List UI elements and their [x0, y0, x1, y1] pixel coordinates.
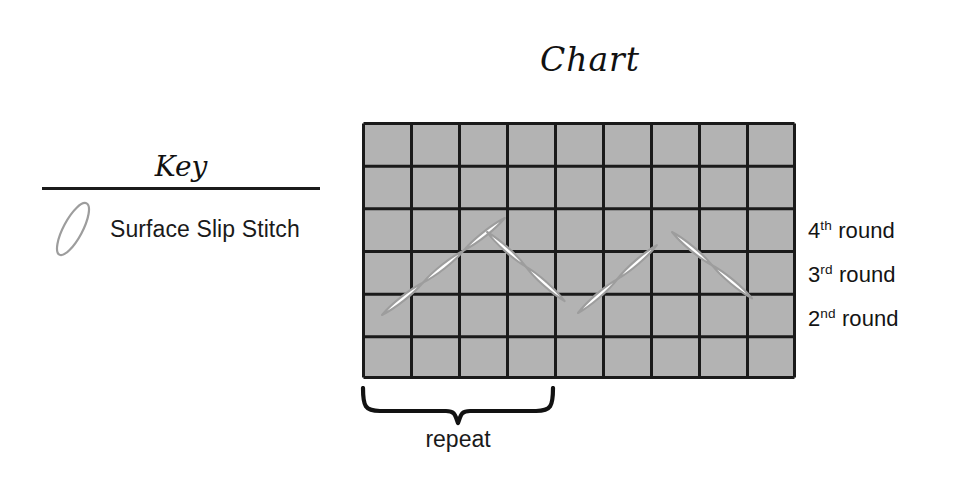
repeat-brace-icon: [358, 386, 563, 426]
round-label-4th: 4th round: [808, 218, 895, 244]
chart-illustration: Chart Key Surface Slip Stitch: [0, 0, 972, 486]
key-entry-surface-slip-stitch: Surface Slip Stitch: [42, 200, 320, 258]
key-divider: [42, 187, 320, 190]
repeat-bracket-group: repeat: [358, 386, 563, 464]
repeat-label: repeat: [358, 426, 558, 453]
key-legend: Key Surface Slip Stitch: [42, 152, 320, 258]
round-label-2nd: 2nd round: [808, 306, 899, 332]
key-entry-label: Surface Slip Stitch: [104, 216, 300, 243]
stitch-chart-grid: [362, 122, 796, 379]
key-heading: Key: [42, 152, 320, 181]
page-title: Chart: [440, 40, 740, 79]
surface-slip-stitch-icon: [42, 200, 104, 258]
round-label-3rd: 3rd round: [808, 262, 896, 288]
